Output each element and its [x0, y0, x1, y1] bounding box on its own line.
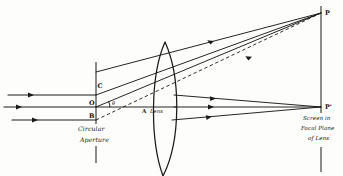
label-point-p: P [325, 9, 330, 17]
ray-c-to-p [96, 13, 321, 72]
label-point-c: C [98, 82, 103, 90]
axis-incoming-ray [4, 105, 96, 110]
arrowhead-icon [28, 93, 34, 98]
arrowhead-icon [210, 96, 216, 101]
arrowhead-icon [245, 56, 252, 60]
label-theta: θ [112, 100, 116, 106]
aperture-caption-line-2: Aperture [79, 136, 109, 144]
incoming-ray-group [4, 93, 96, 123]
label-point-o: O [89, 99, 95, 107]
lower-incoming-ray [12, 118, 96, 123]
screen-caption-line-2: Focal Plane [300, 125, 335, 131]
screen-caption-line-3: of Lens [308, 135, 329, 142]
arrowhead-icon [206, 115, 212, 120]
arrowhead-icon [32, 118, 38, 123]
caption-focal-plane-screen: Screen in Focal Plane of Lens [300, 115, 335, 142]
ray-b-to-p [96, 13, 321, 107]
label-point-p-prime: P' [325, 103, 332, 111]
converging-ray-group-to-pprime [172, 95, 321, 120]
theta-angle-marker [109, 101, 110, 107]
label-point-b: B [89, 112, 95, 120]
arrowhead-icon [208, 105, 214, 110]
diagram-canvas: C O B A Lens θ P P' Circular Aperture Sc… [0, 0, 343, 176]
ray-upper-to-pprime [174, 95, 321, 107]
upper-incoming-ray [8, 93, 96, 98]
label-point-a: A [141, 108, 147, 114]
ray-o-to-p [96, 13, 321, 95]
aperture-caption-line-1: Circular [78, 125, 105, 132]
optics-ray-diagram: C O B A Lens θ P P' Circular Aperture Sc… [0, 0, 343, 176]
arrowhead-icon [16, 105, 22, 110]
label-lens: Lens [149, 108, 163, 114]
screen-caption-line-1: Screen in [303, 115, 331, 121]
ray-lower-to-pprime [172, 107, 321, 120]
caption-circular-aperture: Circular Aperture [78, 125, 109, 144]
